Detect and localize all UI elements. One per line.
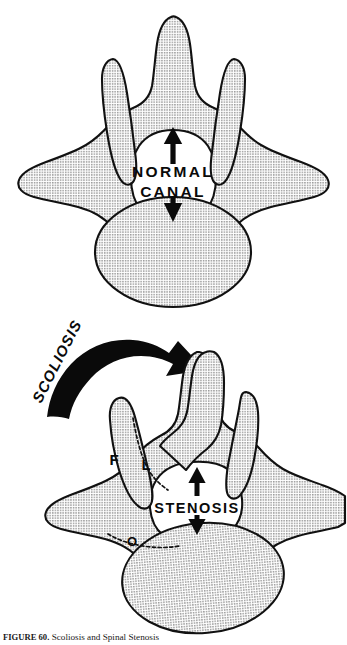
- figure-number: FIGURE 60.: [3, 632, 49, 642]
- figure-illustration: NORMAL CANAL SCOLIOSIS: [0, 0, 347, 645]
- normal-vertebra-panel: NORMAL CANAL: [18, 16, 328, 307]
- normal-canal-line-2: CANAL: [140, 183, 206, 200]
- normal-canal-line-1: NORMAL: [132, 163, 214, 180]
- scoliotic-vertebra-panel: SCOLIOSIS: [29, 317, 345, 640]
- figure-caption-text: Scoliosis and Spinal Stenosis: [52, 632, 159, 642]
- stenosis-label: STENOSIS: [154, 500, 239, 516]
- vertebra-comparison-svg: NORMAL CANAL SCOLIOSIS: [0, 0, 347, 645]
- osteophyte-label: O: [127, 534, 137, 549]
- lamina-label: L: [141, 456, 150, 473]
- facet-label: F: [109, 451, 118, 468]
- figure-caption: FIGURE 60. Scoliosis and Spinal Stenosis: [3, 632, 347, 642]
